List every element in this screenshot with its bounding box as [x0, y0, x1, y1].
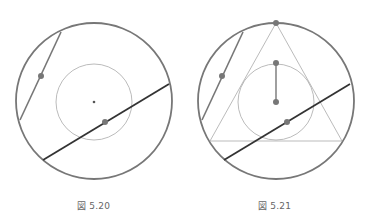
short-chord-midpoint — [219, 73, 225, 79]
center-point — [93, 101, 96, 104]
incircle-top-point — [273, 60, 279, 66]
triangle-apex-point — [273, 20, 279, 26]
figure-caption-5-20: 図 5.20 — [77, 199, 110, 212]
figures-canvas — [0, 0, 366, 223]
long-chord-midpoint — [284, 119, 290, 125]
figure-5-20 — [16, 23, 172, 179]
long-chord-midpoint — [102, 119, 108, 125]
figure-caption-5-21: 図 5.21 — [258, 199, 291, 212]
center-point — [273, 99, 279, 105]
figure-5-21 — [198, 20, 354, 179]
short-chord-midpoint — [38, 73, 44, 79]
